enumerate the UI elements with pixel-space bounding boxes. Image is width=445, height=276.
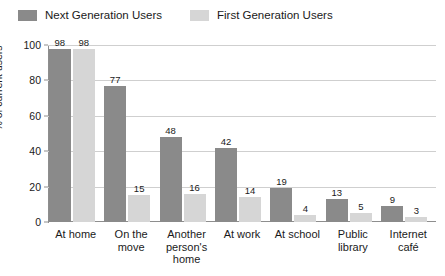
bar-value-label: 48 — [165, 125, 176, 136]
bar-group: 7715 — [104, 45, 150, 222]
y-axis-tick-label: 60 — [29, 110, 48, 121]
bar-next-generation: 48 — [160, 137, 182, 222]
bar-group: 4214 — [215, 45, 261, 222]
bar-first-generation: 15 — [128, 195, 150, 222]
x-axis-category-label: Internet café — [375, 228, 442, 253]
y-axis-tick-label: 100 — [23, 40, 48, 51]
y-axis-title: % of current users — [0, 45, 4, 130]
bar-value-label: 13 — [332, 187, 343, 198]
bar-first-generation: 3 — [405, 217, 427, 222]
bar-first-generation: 4 — [294, 215, 316, 222]
bar-next-generation: 77 — [104, 86, 126, 222]
bar-first-generation: 16 — [184, 194, 206, 222]
bar-group: 93 — [381, 45, 427, 222]
bar-value-label: 77 — [110, 74, 121, 85]
bar-value-label: 15 — [134, 183, 145, 194]
bar-value-label: 4 — [303, 203, 308, 214]
bar-value-label: 9 — [390, 194, 395, 205]
legend-label-first-generation-users: First Generation Users — [217, 9, 333, 21]
bar-next-generation: 98 — [49, 49, 71, 222]
bar-value-label: 16 — [189, 182, 200, 193]
bar-first-generation: 14 — [239, 197, 261, 222]
bar-next-generation: 19 — [270, 188, 292, 222]
y-axis-tick-label: 40 — [29, 146, 48, 157]
bar-next-generation: 9 — [381, 206, 403, 222]
legend-item-first-generation-users: First Generation Users — [190, 9, 333, 21]
legend-swatch-next-generation-icon — [18, 10, 37, 21]
bar-group: 4816 — [160, 45, 206, 222]
bar-value-label: 3 — [414, 205, 419, 216]
bar-first-generation: 5 — [350, 213, 372, 222]
bar-value-label: 19 — [276, 176, 287, 187]
bar-group: 9898 — [49, 45, 95, 222]
bar-value-label: 98 — [78, 37, 89, 48]
legend-item-next-generation-users: Next Generation Users — [18, 9, 162, 21]
bar-value-label: 42 — [221, 136, 232, 147]
plot-area: 020406080100989877154816421419413593 — [48, 45, 436, 222]
chart-legend: Next Generation Users First Generation U… — [18, 9, 333, 21]
bar-value-label: 5 — [358, 201, 363, 212]
y-axis-tick-label: 80 — [29, 75, 48, 86]
bar-group: 135 — [326, 45, 372, 222]
bar-next-generation: 42 — [215, 148, 237, 222]
bar-value-label: 14 — [245, 185, 256, 196]
bar-chart: Next Generation Users First Generation U… — [0, 0, 445, 276]
bar-value-label: 98 — [54, 37, 65, 48]
bar-first-generation: 98 — [73, 49, 95, 222]
y-axis-tick-label: 0 — [35, 217, 48, 228]
legend-swatch-first-generation-icon — [190, 10, 209, 21]
bar-next-generation: 13 — [326, 199, 348, 222]
y-axis-tick-label: 20 — [29, 181, 48, 192]
bar-group: 194 — [270, 45, 316, 222]
legend-label-next-generation-users: Next Generation Users — [45, 9, 162, 21]
